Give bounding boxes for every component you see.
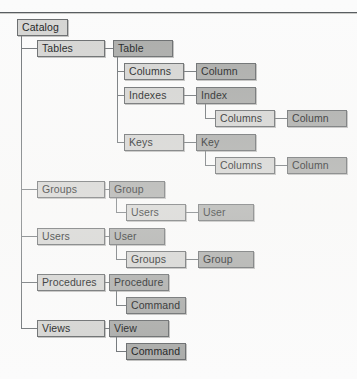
node-users[interactable]: Users — [37, 228, 105, 245]
connector-indexes-index — [184, 95, 196, 96]
connector-index-columns — [205, 118, 215, 119]
node-columns-index[interactable]: Columns — [215, 110, 275, 127]
connector-key-columns — [205, 165, 215, 166]
node-index[interactable]: Index — [196, 87, 256, 104]
node-column-table[interactable]: Column — [196, 63, 256, 80]
header-rule — [0, 12, 357, 13]
node-column-index[interactable]: Column — [287, 110, 347, 127]
connector-catalog-tables — [21, 48, 37, 49]
node-users-group[interactable]: Users — [126, 204, 186, 221]
connector-columns-column — [184, 71, 196, 72]
trunk-table — [117, 57, 118, 142]
trunk-user — [116, 245, 117, 260]
node-table[interactable]: Table — [113, 40, 173, 57]
node-tables[interactable]: Tables — [37, 40, 105, 57]
connector-table-indexes — [117, 95, 124, 96]
node-user[interactable]: User — [109, 228, 165, 245]
connector-indexcolumns-column — [275, 118, 287, 119]
connector-groups-groupleaf — [186, 259, 198, 260]
node-group-user[interactable]: Group — [198, 251, 254, 268]
connector-catalog-users — [21, 236, 37, 237]
trunk-index — [205, 104, 206, 119]
diagram-canvas: Catalog Tables Table Columns Column Inde… — [0, 0, 357, 379]
node-columns-table[interactable]: Columns — [124, 63, 184, 80]
node-group[interactable]: Group — [109, 181, 165, 198]
connector-keycolumns-column — [275, 165, 287, 166]
node-user-group[interactable]: User — [198, 204, 254, 221]
trunk-group — [116, 198, 117, 213]
connector-tables-table — [105, 48, 113, 49]
connector-procedure-command — [116, 305, 126, 306]
node-view[interactable]: View — [109, 320, 169, 337]
connector-table-keys — [117, 142, 124, 143]
connector-user-groups — [116, 259, 126, 260]
connector-group-users — [116, 212, 126, 213]
trunk-procedure — [116, 291, 117, 306]
node-procedure[interactable]: Procedure — [109, 274, 169, 291]
connector-catalog-procedures — [21, 282, 37, 283]
node-groups[interactable]: Groups — [37, 181, 105, 198]
node-procedures[interactable]: Procedures — [37, 274, 105, 291]
connector-catalog-views — [21, 328, 37, 329]
trunk-key — [205, 151, 206, 166]
connector-catalog-groups — [21, 189, 37, 190]
node-keys[interactable]: Keys — [124, 134, 184, 151]
node-catalog[interactable]: Catalog — [17, 19, 68, 36]
connector-table-columns — [117, 71, 124, 72]
connector-keys-key — [184, 142, 196, 143]
connector-view-command — [116, 351, 126, 352]
node-groups-user[interactable]: Groups — [126, 251, 186, 268]
trunk-view — [116, 337, 117, 352]
node-command-view[interactable]: Command — [126, 343, 186, 360]
trunk-catalog — [21, 36, 22, 329]
node-columns-key[interactable]: Columns — [215, 157, 275, 174]
connector-users-user — [186, 212, 198, 213]
node-command-procedure[interactable]: Command — [126, 297, 186, 314]
node-indexes[interactable]: Indexes — [124, 87, 184, 104]
node-views[interactable]: Views — [37, 320, 105, 337]
node-column-key[interactable]: Column — [287, 157, 347, 174]
node-key[interactable]: Key — [196, 134, 256, 151]
